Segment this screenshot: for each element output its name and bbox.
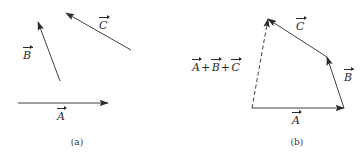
- vector-a-label-text-panel-b: A: [292, 114, 300, 126]
- vector-a-label-text-panel-a: A: [57, 110, 65, 122]
- vector-b-label-text-panel-a: B: [23, 49, 31, 61]
- resultant-vector-arrow-dashed: [252, 19, 268, 108]
- resultant-vector-label: A+B+C: [192, 61, 240, 73]
- resultant-term-c: C: [231, 61, 239, 73]
- vector-c-label-panel-a: C: [99, 19, 107, 31]
- vector-c-label-text-panel-a: C: [99, 19, 107, 31]
- vector-addition-figure: A B C (a) A B C A+B+C (b): [0, 0, 363, 161]
- resultant-plus-1: +: [200, 61, 212, 74]
- vector-b-label-panel-b: B: [344, 71, 352, 83]
- panel-a-vectors: [18, 13, 131, 103]
- vector-b-label-panel-a: B: [23, 49, 31, 61]
- resultant-plus-2: +: [220, 61, 232, 74]
- vector-b-arrow-panel-a: [38, 22, 60, 81]
- vector-a-label-panel-b: A: [292, 114, 300, 126]
- vector-c-label-text-panel-b: C: [296, 20, 304, 32]
- vector-c-label-panel-b: C: [296, 20, 304, 32]
- vector-b-arrow-panel-b: [327, 57, 344, 108]
- resultant-term-b: B: [212, 61, 220, 73]
- resultant-term-a: A: [192, 61, 200, 73]
- vector-a-label-panel-a: A: [57, 110, 65, 122]
- figure-canvas: [0, 0, 363, 161]
- panel-b-caption: (b): [285, 138, 309, 147]
- panel-a-caption: (a): [65, 138, 89, 147]
- vector-b-label-text-panel-b: B: [344, 71, 352, 83]
